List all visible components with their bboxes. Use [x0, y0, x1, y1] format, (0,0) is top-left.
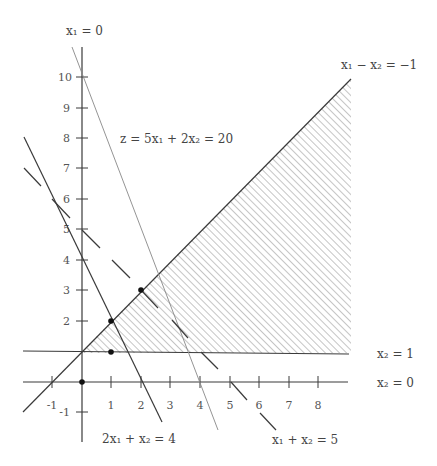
svg-text:4: 4 [63, 254, 70, 267]
x-axis-label: x₂ = 0 [377, 376, 414, 390]
svg-text:8: 8 [315, 399, 322, 412]
svg-text:-1: -1 [47, 399, 58, 412]
svg-text:7: 7 [63, 162, 70, 175]
lp-diagram: -1 1 2 3 4 5 6 7 8 -1 2 3 4 5 6 7 8 9 10 [0, 0, 437, 466]
y-tick-labels: -1 2 3 4 5 6 7 8 9 10 [58, 71, 72, 419]
svg-text:8: 8 [63, 132, 70, 145]
svg-text:10: 10 [58, 71, 72, 84]
objective-label: z = 5x₁ + 2x₂ = 20 [120, 132, 233, 146]
svg-text:6: 6 [63, 193, 70, 206]
svg-text:7: 7 [286, 399, 293, 412]
point-1-2 [108, 318, 114, 324]
svg-text:1: 1 [108, 399, 115, 412]
constraint-label-x1-minus-x2: x₁ − x₂ = −1 [341, 58, 417, 72]
constraint-line-2x1-plus-x2 [24, 137, 162, 422]
point-0-0 [79, 379, 85, 385]
svg-text:6: 6 [256, 399, 263, 412]
y-axis-label: x₁ = 0 [66, 24, 103, 38]
svg-text:3: 3 [63, 284, 70, 297]
svg-text:5: 5 [227, 399, 234, 412]
svg-text:3: 3 [167, 399, 174, 412]
svg-text:9: 9 [63, 102, 70, 115]
svg-text:2: 2 [138, 399, 145, 412]
svg-text:2: 2 [63, 315, 70, 328]
constraint-label-x2-eq-1: x₂ = 1 [377, 347, 414, 361]
point-2-3 [138, 287, 144, 293]
constraint-label-2x1-plus-x2: 2x₁ + x₂ = 4 [102, 432, 176, 446]
point-1-1 [108, 349, 114, 355]
svg-text:4: 4 [197, 399, 204, 412]
x-tick-labels: -1 1 2 3 4 5 6 7 8 [47, 399, 322, 412]
constraint-label-x1-plus-x2: x₁ + x₂ = 5 [272, 433, 338, 447]
svg-text:-1: -1 [59, 406, 70, 419]
